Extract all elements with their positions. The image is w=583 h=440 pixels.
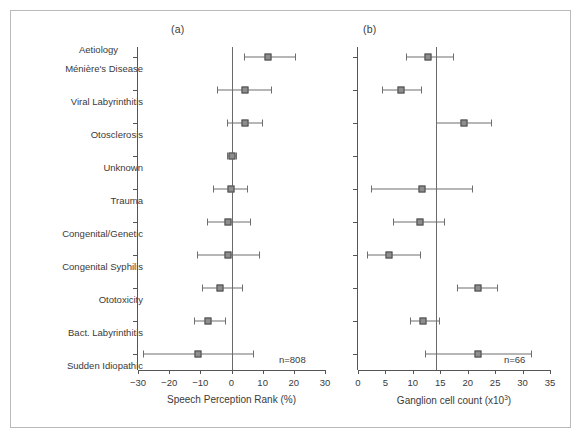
panel-b-cap-low-7 [457, 285, 458, 292]
cat-label-menieres-disease: Ménière's Disease [65, 63, 143, 74]
panel-b-ytick-5 [353, 222, 357, 223]
panel-b-cap-low-6 [367, 252, 368, 259]
panel-b-datapoint-8[interactable] [419, 318, 426, 325]
panel-a-cap-low-9 [143, 351, 144, 358]
panel-a-cap-high-8 [225, 318, 226, 325]
panel-a-ytick-7 [133, 288, 137, 289]
panel-a-cap-low-1 [217, 87, 218, 94]
panel-b-axis-title: Ganglion cell count (x103) [358, 394, 550, 406]
panel-a-ytick-8 [133, 321, 137, 322]
panel-a-cap-high-1 [271, 87, 272, 94]
panel-b-datapoint-4[interactable] [419, 186, 426, 193]
cat-label-congenital-syphilis: Congenital Syphilis [62, 261, 143, 272]
panel-b-errorbar-6 [367, 255, 420, 256]
panel-b-ytick-4 [353, 189, 357, 190]
panel-b-cap-high-6 [420, 252, 421, 259]
panel-a-datapoint-0[interactable] [264, 54, 271, 61]
panel-b-cap-high-0 [453, 54, 454, 61]
panel-b-xticklabel-4: 20 [462, 377, 473, 388]
panel-a-xtick-0 [138, 370, 139, 374]
panel-b-xticklabel-6: 30 [517, 377, 528, 388]
panel-b-cap-low-5 [393, 219, 394, 226]
panel-b-cap-high-4 [472, 186, 473, 193]
panel-a-datapoint-6[interactable] [225, 252, 232, 259]
cat-label-trauma: Trauma [111, 195, 143, 206]
panel-a-cap-low-2 [227, 120, 228, 127]
panel-a-cap-high-0 [295, 54, 296, 61]
panel-b-datapoint-0[interactable] [425, 54, 432, 61]
panel-a-ytick-9 [133, 354, 137, 355]
panel-a-xticklabel-2: −10 [192, 377, 208, 388]
panel-a-ytick-0 [133, 57, 137, 58]
panel-a-cap-high-5 [250, 219, 251, 226]
panel-b-cap-high-2 [491, 120, 492, 127]
panel-b-letter: (b) [363, 23, 376, 35]
panel-b-cap-high-5 [444, 219, 445, 226]
panel-b-datapoint-2[interactable] [460, 120, 467, 127]
panel-a-cap-high-3 [236, 153, 237, 160]
panel-b-ytick-9 [353, 354, 357, 355]
panel-a-xticklabel-0: −30 [130, 377, 146, 388]
panel-a-cap-low-7 [202, 285, 203, 292]
panel-a-ytick-2 [133, 123, 137, 124]
cat-label-otosclerosis: Otosclerosis [91, 129, 143, 140]
panel-b-datapoint-1[interactable] [397, 87, 404, 94]
panel-a-xticklabel-4: 10 [257, 377, 268, 388]
cat-label-viral-labyrinthitis: Viral Labyrinthitis [71, 96, 143, 107]
panel-b-xticklabel-3: 15 [435, 377, 446, 388]
panel-b-cap-low-0 [406, 54, 407, 61]
panel-b-xtick-7 [550, 370, 551, 374]
panel-a-datapoint-3[interactable] [228, 153, 235, 160]
panel-b-xticklabel-0: 0 [355, 377, 360, 388]
panel-b-ytick-7 [353, 288, 357, 289]
panel-a-xtick-1 [169, 370, 170, 374]
panel-a-cap-high-6 [259, 252, 260, 259]
panel-a-datapoint-5[interactable] [225, 219, 232, 226]
panel-a-datapoint-4[interactable] [227, 186, 234, 193]
panel-a-datapoint-9[interactable] [194, 351, 201, 358]
panel-a-datapoint-7[interactable] [216, 285, 223, 292]
panel-b-category-axis [357, 47, 358, 370]
panel-b-ytick-1 [353, 90, 357, 91]
panel-b-cap-low-4 [371, 186, 372, 193]
panel-a-datapoint-1[interactable] [241, 87, 248, 94]
panel-a-cap-low-0 [244, 54, 245, 61]
panel-a-cap-high-4 [247, 186, 248, 193]
panel-b-cap-low-9 [425, 351, 426, 358]
panel-b-value-axis [358, 370, 550, 371]
panel-b-xtick-6 [523, 370, 524, 374]
panel-b-datapoint-6[interactable] [385, 252, 392, 259]
panel-b-datapoint-9[interactable] [474, 351, 481, 358]
panel-b-ytick-6 [353, 255, 357, 256]
panel-a-letter: (a) [171, 23, 184, 35]
panel-a-cap-high-2 [262, 120, 263, 127]
panel-b-cap-low-8 [410, 318, 411, 325]
panel-b-cap-high-9 [531, 351, 532, 358]
panel-b-xtick-0 [358, 370, 359, 374]
panel-b-datapoint-7[interactable] [474, 285, 481, 292]
panel-a-ytick-6 [133, 255, 137, 256]
panel-a-datapoint-2[interactable] [241, 120, 248, 127]
panel-b-cap-high-8 [439, 318, 440, 325]
cat-label-bact-labyrinthitis: Bact. Labyrinthitis [68, 327, 143, 338]
panel-a-axis-title: Speech Perception Rank (%) [138, 394, 325, 405]
panel-a-xticklabel-3: 0 [229, 377, 234, 388]
panel-b-xtick-5 [495, 370, 496, 374]
panel-b-xtick-3 [440, 370, 441, 374]
panel-b-ytick-8 [353, 321, 357, 322]
panel-b-cap-high-7 [497, 285, 498, 292]
panel-a-cap-high-7 [242, 285, 243, 292]
panel-a-xticklabel-6: 30 [320, 377, 331, 388]
panel-a-datapoint-8[interactable] [205, 318, 212, 325]
panel-b-datapoint-5[interactable] [416, 219, 423, 226]
panel-a-cap-low-4 [213, 186, 214, 193]
panel-b-xticklabel-5: 25 [490, 377, 501, 388]
panel-a-category-axis [137, 47, 138, 370]
panel-a-xtick-5 [294, 370, 295, 374]
panel-b-xticklabel-7: 35 [545, 377, 556, 388]
panel-a-ytick-3 [133, 156, 137, 157]
panel-b-cap-high-1 [421, 87, 422, 94]
panel-a-ytick-4 [133, 189, 137, 190]
panel-a-xtick-3 [232, 370, 233, 374]
panel-a-cap-high-9 [253, 351, 254, 358]
